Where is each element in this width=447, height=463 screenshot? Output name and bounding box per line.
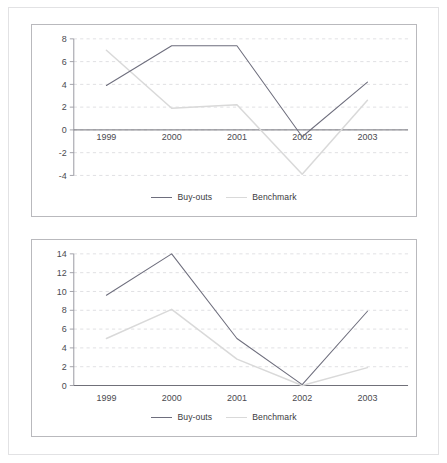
svg-text:12: 12 <box>57 268 67 278</box>
svg-text:-2: -2 <box>59 148 67 158</box>
svg-text:2001: 2001 <box>227 393 247 403</box>
legend-label-buyouts: Buy-outs <box>177 192 212 202</box>
legend-line-swatch-benchmark <box>226 417 247 418</box>
chart-legend-bottom: Buy-outs Benchmark <box>32 412 416 422</box>
svg-text:2000: 2000 <box>162 393 182 403</box>
svg-text:0: 0 <box>62 125 67 135</box>
legend-item-benchmark[interactable]: Benchmark <box>226 192 296 202</box>
svg-text:0: 0 <box>62 381 67 391</box>
legend-label-benchmark: Benchmark <box>252 412 296 422</box>
plot-area-top: 86420-2-419992000200120022003 <box>32 25 416 216</box>
svg-text:-4: -4 <box>59 171 67 181</box>
legend-item-buyouts[interactable]: Buy-outs <box>151 192 212 202</box>
line-chart-top: 86420-2-419992000200120022003 <box>32 25 416 216</box>
svg-text:2: 2 <box>62 102 67 112</box>
svg-text:4: 4 <box>62 80 67 90</box>
svg-text:10: 10 <box>57 287 67 297</box>
svg-text:6: 6 <box>62 324 67 334</box>
svg-text:14: 14 <box>57 249 67 259</box>
chart-legend-top: Buy-outs Benchmark <box>32 192 416 202</box>
svg-text:2002: 2002 <box>292 393 312 403</box>
legend-item-benchmark[interactable]: Benchmark <box>226 412 296 422</box>
plot-area-bottom: 1412108642019992000200120022003 <box>32 240 416 436</box>
legend-label-buyouts: Buy-outs <box>177 412 212 422</box>
line-chart-bottom: 1412108642019992000200120022003 <box>32 240 416 436</box>
svg-text:1999: 1999 <box>96 132 116 142</box>
svg-text:1999: 1999 <box>96 393 116 403</box>
legend-line-swatch-buyouts <box>151 417 172 418</box>
svg-text:2000: 2000 <box>162 132 182 142</box>
svg-text:8: 8 <box>62 305 67 315</box>
svg-text:2003: 2003 <box>357 393 377 403</box>
figure-container: 86420-2-419992000200120022003 Buy-outs B… <box>0 0 447 463</box>
svg-text:2: 2 <box>62 362 67 372</box>
svg-text:6: 6 <box>62 57 67 67</box>
legend-label-benchmark: Benchmark <box>252 192 296 202</box>
svg-text:8: 8 <box>62 34 67 44</box>
svg-text:4: 4 <box>62 343 67 353</box>
svg-text:2001: 2001 <box>227 132 247 142</box>
legend-line-swatch-buyouts <box>151 197 172 198</box>
legend-item-buyouts[interactable]: Buy-outs <box>151 412 212 422</box>
svg-text:2003: 2003 <box>357 132 377 142</box>
chart-panel-top: 86420-2-419992000200120022003 Buy-outs B… <box>31 24 417 217</box>
chart-panel-bottom: 1412108642019992000200120022003 Buy-outs… <box>31 239 417 437</box>
legend-line-swatch-benchmark <box>226 197 247 198</box>
